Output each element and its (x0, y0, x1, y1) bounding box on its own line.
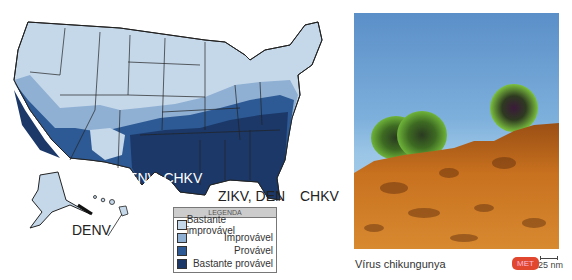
photo-caption: Vírus chikungunya (355, 258, 446, 270)
legend-item: Bastante provável (174, 257, 276, 270)
legend-label: Improvável (224, 232, 273, 243)
legend-swatch-bastante-improvavel (177, 220, 187, 230)
scale-bar: 25 nm (538, 256, 563, 270)
met-badge: MET (512, 257, 539, 270)
map-label-denv-chkv: DENV, CHKV (118, 170, 202, 186)
legend-label: Bastante provável (193, 258, 273, 269)
alaska-shape (30, 172, 90, 228)
map-label-denv-alaska-hawaii: DENV (72, 222, 111, 238)
scale-label: 25 nm (538, 260, 563, 270)
legend-item: Provável (174, 244, 276, 257)
scale-bar-icon (540, 256, 558, 260)
legend-swatch-bastante-provavel (177, 259, 187, 269)
legend-label: Provável (234, 245, 273, 256)
legend-swatch-improvavel (177, 233, 187, 243)
legend-swatch-provavel (177, 246, 187, 256)
virus-micrograph (354, 13, 559, 249)
map-label-zikv-den: ZIKV, DEN (218, 188, 285, 204)
map-label-chkv: CHKV (300, 188, 339, 204)
legend-item: Bastante improvável (174, 218, 276, 231)
micrograph-illustration (354, 13, 559, 249)
map-legend: LEGENDA Bastante improvável Improvável P… (173, 207, 277, 273)
